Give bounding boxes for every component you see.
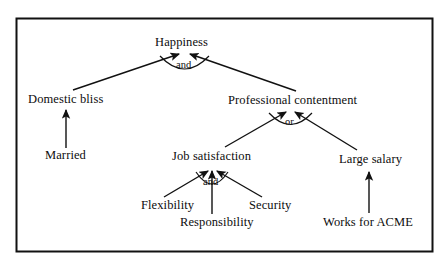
node-responsibility: Responsibility xyxy=(180,216,254,229)
connector-label-happiness-and: and xyxy=(176,59,191,70)
node-domestic-bliss: Domestic bliss xyxy=(28,93,103,106)
edge-job-satisfaction-to-professional-contentment xyxy=(225,112,286,147)
connector-label-professional-or: or xyxy=(285,116,294,127)
node-professional-contentment: Professional contentment xyxy=(228,94,357,107)
node-works-for-acme: Works for ACME xyxy=(323,216,413,229)
diagram-canvas: Happiness Domestic bliss Professional co… xyxy=(0,0,448,269)
node-flexibility: Flexibility xyxy=(141,199,194,212)
connector-label-job-and: and xyxy=(203,176,218,187)
node-married: Married xyxy=(45,149,86,162)
node-large-salary: Large salary xyxy=(339,153,402,166)
edge-flexibility-to-job-satisfaction xyxy=(164,171,208,197)
node-job-satisfaction: Job satisfaction xyxy=(172,150,251,163)
edge-large-salary-to-professional-contentment xyxy=(295,112,357,150)
node-happiness: Happiness xyxy=(155,36,208,49)
edge-security-to-job-satisfaction xyxy=(217,171,262,197)
node-security: Security xyxy=(249,199,291,212)
